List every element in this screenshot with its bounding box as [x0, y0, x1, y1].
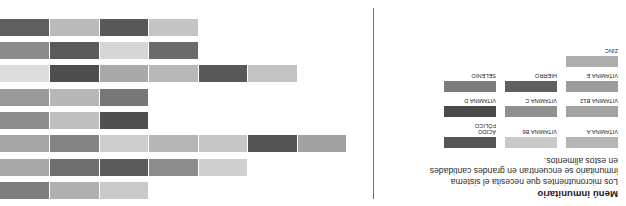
bar-row[interactable]	[0, 89, 149, 106]
legend-swatch	[566, 81, 618, 92]
bar-segment[interactable]	[248, 66, 298, 83]
legend-swatch	[505, 81, 557, 92]
bar-segment[interactable]	[99, 159, 149, 176]
legend-label: VITAMINA B12	[557, 98, 618, 104]
legend-swatch	[444, 137, 496, 148]
legend-swatch	[566, 137, 618, 148]
bar-segment[interactable]	[149, 19, 199, 36]
bar-row[interactable]	[0, 19, 198, 36]
bar-segment[interactable]	[0, 159, 50, 176]
legend-item[interactable]: ZINC	[557, 48, 618, 67]
legend-row: ZINC	[434, 42, 618, 67]
legend-item[interactable]: VITAMINA B12	[557, 98, 618, 117]
chart-rows	[0, 0, 370, 206]
legend-swatch	[505, 137, 557, 148]
bar-segment[interactable]	[149, 42, 199, 59]
legend-label: VITAMINA B6	[496, 129, 557, 135]
chart-legend: VITAMINA AVITAMINA B6ÁCIDO FÓLICOVITAMIN…	[434, 42, 618, 148]
legend-label: VITAMINA C	[496, 98, 557, 104]
stacked-bar-chart: ZANAHORIASCEREALESHUEVOSCÍTRICOSMARISCOS…	[0, 0, 374, 206]
legend-item[interactable]: VITAMINA B6	[496, 123, 557, 148]
legend-row: VITAMINA B12VITAMINA CVITAMINA D	[434, 92, 618, 117]
legend-swatch	[444, 106, 496, 117]
bar-segment[interactable]	[0, 182, 50, 199]
bar-segment[interactable]	[99, 135, 149, 152]
legend-label: VITAMINA E	[557, 73, 618, 79]
bar-row[interactable]	[0, 112, 149, 129]
bar-segment[interactable]	[0, 112, 50, 129]
bar-segment[interactable]	[99, 66, 149, 83]
bar-segment[interactable]	[0, 89, 50, 106]
header-block: Menú inmunitario Los micronutrientes que…	[422, 155, 618, 200]
legend-item[interactable]: VITAMINA C	[496, 98, 557, 117]
legend-swatch	[566, 106, 618, 117]
bar-segment[interactable]	[50, 42, 100, 59]
page-title: Menú inmunitario	[422, 189, 618, 200]
chart-axis-line	[373, 8, 374, 199]
bar-segment[interactable]	[0, 66, 50, 83]
bar-segment[interactable]	[50, 159, 100, 176]
bar-segment[interactable]	[149, 159, 199, 176]
bar-segment[interactable]	[0, 19, 50, 36]
bar-segment[interactable]	[198, 135, 248, 152]
legend-label: ZINC	[557, 48, 618, 54]
legend-item[interactable]: ÁCIDO FÓLICO	[435, 123, 496, 148]
bar-segment[interactable]	[149, 135, 199, 152]
header-description: Los micronutrientes que necesita el sist…	[422, 155, 618, 187]
bar-segment[interactable]	[198, 159, 248, 176]
legend-item[interactable]: VITAMINA A	[557, 123, 618, 148]
legend-label: HIERRO	[496, 73, 557, 79]
bar-segment[interactable]	[248, 135, 298, 152]
legend-label: VITAMINA D	[435, 98, 496, 104]
bar-row[interactable]	[0, 135, 347, 152]
bar-segment[interactable]	[99, 89, 149, 106]
infographic-canvas: Menú inmunitario Los micronutrientes que…	[0, 0, 626, 206]
bar-row[interactable]	[0, 66, 297, 83]
bar-segment[interactable]	[297, 135, 347, 152]
legend-item[interactable]: SELENIO	[435, 73, 496, 92]
bar-segment[interactable]	[99, 42, 149, 59]
bar-segment[interactable]	[0, 42, 50, 59]
bar-segment[interactable]	[50, 135, 100, 152]
legend-label: VITAMINA A	[557, 129, 618, 135]
legend-label: SELENIO	[435, 73, 496, 79]
legend-item[interactable]: VITAMINA E	[557, 73, 618, 92]
bar-row[interactable]	[0, 42, 198, 59]
bar-segment[interactable]	[99, 19, 149, 36]
bar-segment[interactable]	[50, 182, 100, 199]
bar-segment[interactable]	[50, 19, 100, 36]
bar-segment[interactable]	[50, 112, 100, 129]
legend-swatch	[444, 81, 496, 92]
legend-item[interactable]: VITAMINA D	[435, 98, 496, 117]
bar-segment[interactable]	[99, 112, 149, 129]
bar-segment[interactable]	[0, 135, 50, 152]
bar-segment[interactable]	[50, 89, 100, 106]
legend-label: ÁCIDO FÓLICO	[435, 123, 496, 136]
bar-segment[interactable]	[50, 66, 100, 83]
legend-row: VITAMINA AVITAMINA B6ÁCIDO FÓLICO	[434, 117, 618, 148]
bar-segment[interactable]	[198, 66, 248, 83]
legend-swatch	[505, 106, 557, 117]
bar-segment[interactable]	[99, 182, 149, 199]
legend-item[interactable]: HIERRO	[496, 73, 557, 92]
bar-segment[interactable]	[149, 66, 199, 83]
bar-row[interactable]	[0, 159, 248, 176]
legend-row: VITAMINA EHIERROSELENIO	[434, 67, 618, 92]
legend-swatch	[566, 56, 618, 67]
bar-row[interactable]	[0, 182, 149, 199]
